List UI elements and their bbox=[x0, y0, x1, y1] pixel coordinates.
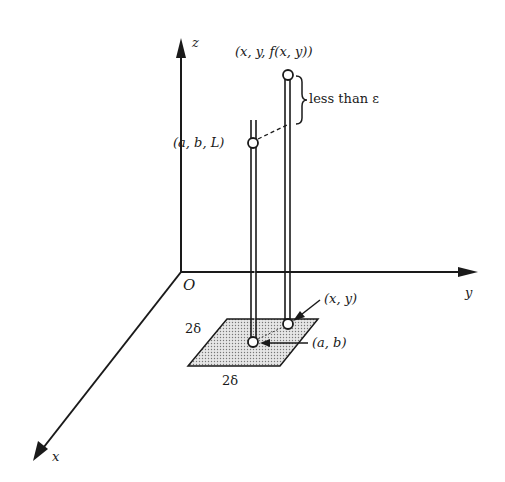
y-axis bbox=[181, 267, 478, 277]
square-side-bottom-label: 2δ bbox=[222, 374, 238, 387]
square-side-left-label: 2δ bbox=[185, 322, 201, 335]
origin-label: O bbox=[183, 278, 195, 293]
ab-point-label: (a, b) bbox=[312, 336, 346, 349]
top-point-label: (x, y, f(x, y)) bbox=[235, 45, 313, 58]
point-ab bbox=[248, 337, 258, 347]
point-top bbox=[283, 70, 293, 80]
limit-point-label: (a, b, L) bbox=[173, 136, 224, 149]
xy-point-label: (x, y) bbox=[324, 292, 357, 305]
dashed-connector bbox=[258, 125, 287, 139]
vertical-line-xy bbox=[285, 78, 290, 320]
point-limit bbox=[248, 138, 258, 148]
brace-label: less than ε bbox=[309, 92, 379, 105]
brace-icon bbox=[296, 76, 307, 124]
arrow-xy-icon bbox=[293, 300, 320, 321]
z-axis bbox=[176, 38, 186, 272]
x-axis-label: x bbox=[52, 450, 59, 463]
vertical-line-ab bbox=[251, 120, 256, 338]
point-xy bbox=[283, 319, 293, 329]
diagram-canvas bbox=[0, 0, 505, 482]
y-axis-label: y bbox=[465, 286, 472, 299]
x-axis bbox=[33, 272, 181, 461]
z-axis-label: z bbox=[192, 36, 199, 49]
